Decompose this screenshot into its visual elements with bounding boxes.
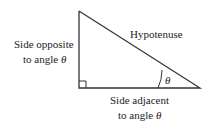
right-triangle-diagram: Hypotenuse Side opposite to angle θ θ Si…: [0, 0, 210, 130]
adjacent-label-line1: Side adjacent: [110, 94, 169, 106]
triangle-shape: [79, 11, 200, 88]
adjacent-label-line2: to angle θ: [118, 109, 162, 121]
hypotenuse-label: Hypotenuse: [130, 28, 183, 40]
triangle-svg: Hypotenuse Side opposite to angle θ θ Si…: [0, 0, 210, 130]
angle-arc: [158, 70, 162, 88]
opposite-label-line2: to angle θ: [23, 53, 67, 65]
opposite-label-line1: Side opposite: [14, 38, 74, 50]
right-angle-marker: [79, 81, 86, 88]
angle-theta-label: θ: [165, 74, 171, 86]
